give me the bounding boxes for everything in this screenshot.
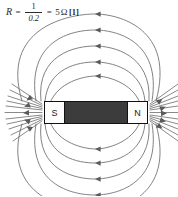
north-pole: N: [127, 102, 147, 123]
north-pole-label: N: [134, 108, 141, 118]
field-loop-bottom-group: [18, 122, 160, 196]
field-fan-south: [5, 84, 42, 141]
south-pole-label: S: [51, 108, 57, 118]
resistance-formula: R = 1 0.2 = 5 Ω [1]: [6, 2, 79, 22]
formula-numerator: 1: [30, 2, 38, 11]
formula-fraction: 1 0.2: [25, 2, 42, 22]
formula-equals-1: =: [16, 8, 21, 17]
south-pole: S: [45, 102, 65, 123]
formula-variable: R: [6, 7, 12, 17]
mark-annotation: [1]: [69, 8, 79, 17]
field-arrow-bottom-group: [95, 147, 101, 197]
magnetic-field-lines: [0, 0, 178, 196]
formula-result: 5: [55, 8, 60, 17]
field-loop-top-group: [18, 14, 160, 103]
bar-magnet: S N: [44, 101, 148, 124]
ohm-unit: Ω: [61, 8, 68, 17]
field-arrow-top-group: [95, 12, 101, 79]
formula-equals-2: =: [47, 8, 52, 17]
diagram-canvas: R = 1 0.2 = 5 Ω [1]: [0, 0, 178, 196]
formula-denominator: 0.2: [26, 14, 41, 23]
magnet-body: [65, 102, 127, 123]
